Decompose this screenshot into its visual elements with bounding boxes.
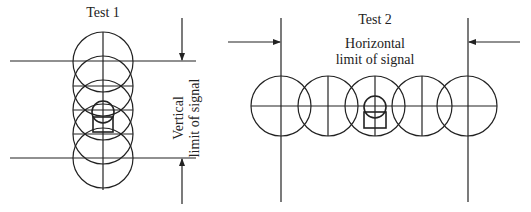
test1-title: Test 1 — [78, 5, 128, 21]
test2-title: Test 2 — [340, 12, 410, 28]
test1-figure — [10, 18, 196, 204]
test1-label-line1: Vertical — [171, 73, 187, 163]
test2-label-line1: Horizontal — [315, 36, 435, 52]
test2-horizontal-limit-label: Horizontal limit of signal — [315, 36, 435, 68]
test1-label-line2: limit of signal — [187, 73, 203, 163]
test2-label-line2: limit of signal — [315, 52, 435, 68]
test1-vertical-limit-label: Vertical limit of signal — [171, 73, 203, 163]
signal-limit-diagram — [0, 0, 531, 212]
